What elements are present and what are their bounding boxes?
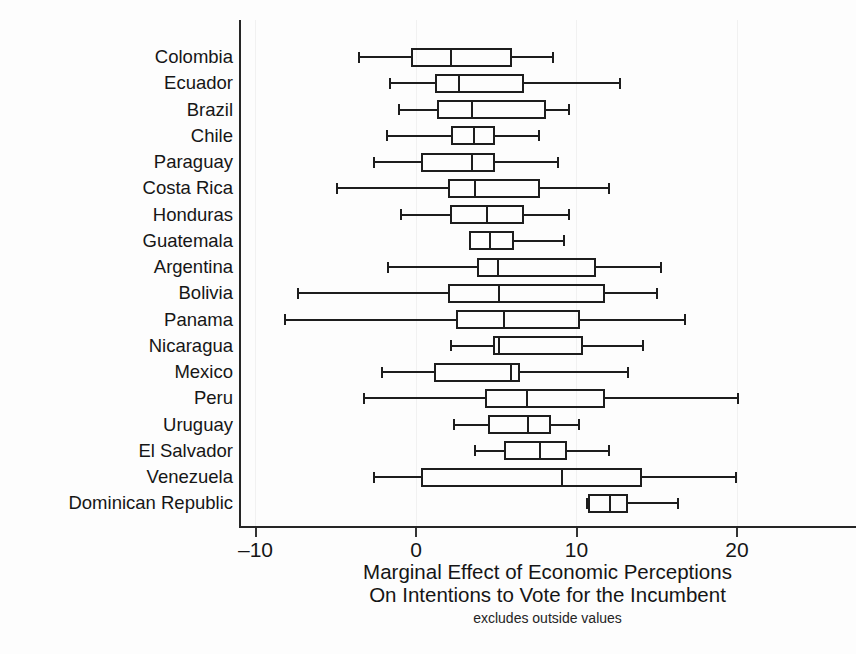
whisker-cap-high <box>608 445 610 456</box>
box-iqr <box>435 74 523 93</box>
grid-line <box>416 20 417 526</box>
whisker-high <box>551 424 580 426</box>
whisker-high <box>642 476 737 478</box>
category-label: Colombia <box>155 47 233 67</box>
category-label: El Salvador <box>138 441 233 461</box>
box-iqr <box>504 441 567 460</box>
whisker-low <box>453 424 488 426</box>
box-iqr <box>448 284 605 303</box>
category-label: Panama <box>164 310 233 330</box>
whisker-high <box>583 345 644 347</box>
x-axis-title-line1: Marginal Effect of Economic Perceptions <box>239 560 856 583</box>
whisker-cap-high <box>538 130 540 141</box>
x-tick-label: 10 <box>565 538 588 562</box>
median-line <box>474 179 476 198</box>
box-iqr <box>485 389 605 408</box>
whisker-low <box>373 476 421 478</box>
box-iqr <box>588 494 628 513</box>
median-line <box>561 468 563 487</box>
whisker-high <box>580 319 686 321</box>
whisker-low <box>389 82 436 84</box>
category-label: Dominican Republic <box>68 493 233 513</box>
whisker-cap-high <box>557 157 559 168</box>
category-label: Brazil <box>187 100 233 120</box>
whisker-high <box>495 135 540 137</box>
whisker-low <box>386 135 452 137</box>
whisker-cap-high <box>619 78 621 89</box>
x-tick <box>576 528 578 537</box>
whisker-high <box>596 266 662 268</box>
whisker-high <box>567 450 610 452</box>
whisker-low <box>400 214 450 216</box>
whisker-low <box>336 187 448 189</box>
box-iqr <box>437 100 546 119</box>
median-line <box>473 126 475 145</box>
box-iqr <box>411 48 512 67</box>
whisker-cap-high <box>578 419 580 430</box>
whisker-high <box>514 240 565 242</box>
whisker-cap-high <box>677 498 679 509</box>
category-label: Mexico <box>174 362 233 382</box>
whisker-cap-low <box>381 367 383 378</box>
whisker-cap-high <box>552 52 554 63</box>
box-iqr <box>488 415 551 434</box>
whisker-low <box>284 319 456 321</box>
whisker-cap-high <box>608 183 610 194</box>
whisker-cap-low <box>389 78 391 89</box>
category-label: Paraguay <box>154 152 233 172</box>
whisker-cap-low <box>474 445 476 456</box>
whisker-cap-high <box>642 340 644 351</box>
box-iqr <box>456 310 580 329</box>
whisker-cap-low <box>284 314 286 325</box>
whisker-low <box>381 371 434 373</box>
whisker-low <box>373 161 421 163</box>
category-label: Argentina <box>154 257 233 277</box>
median-line <box>526 389 528 408</box>
whisker-cap-low <box>358 52 360 63</box>
whisker-cap-high <box>563 235 565 246</box>
whisker-high <box>524 82 622 84</box>
x-axis-title: Marginal Effect of Economic Perceptions … <box>239 560 856 606</box>
whisker-high <box>628 502 679 504</box>
grid-line <box>255 20 256 526</box>
category-label: Uruguay <box>163 415 233 435</box>
box-plot-figure: ColombiaEcuadorBrazilChileParaguayCosta … <box>0 0 856 654</box>
whisker-cap-high <box>568 209 570 220</box>
median-line <box>458 74 460 93</box>
box-iqr <box>448 179 539 198</box>
category-label: Guatemala <box>143 231 234 251</box>
category-label: Honduras <box>153 205 233 225</box>
whisker-low <box>297 292 448 294</box>
x-tick-label: –10 <box>238 538 273 562</box>
box-iqr <box>477 258 596 277</box>
category-label: Peru <box>194 388 233 408</box>
category-label: Bolivia <box>179 283 234 303</box>
category-label: Costa Rica <box>143 178 233 198</box>
grid-line <box>737 20 738 526</box>
chart-note: excludes outside values <box>239 610 856 626</box>
box-iqr <box>493 336 583 355</box>
whisker-cap-high <box>568 104 570 115</box>
whisker-low <box>474 450 504 452</box>
whisker-low <box>358 56 411 58</box>
whisker-cap-low <box>297 288 299 299</box>
whisker-high <box>524 214 571 216</box>
whisker-cap-low <box>336 183 338 194</box>
category-label: Nicaragua <box>149 336 233 356</box>
category-label: Venezuela <box>147 467 233 487</box>
median-line <box>497 258 499 277</box>
x-tick <box>736 528 738 537</box>
whisker-cap-low <box>386 130 388 141</box>
whisker-cap-high <box>660 262 662 273</box>
x-tick <box>255 528 257 537</box>
whisker-cap-high <box>656 288 658 299</box>
whisker-high <box>520 371 629 373</box>
median-line <box>510 363 512 382</box>
x-axis-title-line2: On Intentions to Vote for the Incumbent <box>239 583 856 606</box>
whisker-cap-low <box>398 104 400 115</box>
whisker-high <box>540 187 611 189</box>
median-line <box>527 415 529 434</box>
median-line <box>471 100 473 119</box>
whisker-low <box>363 397 485 399</box>
whisker-cap-high <box>627 367 629 378</box>
